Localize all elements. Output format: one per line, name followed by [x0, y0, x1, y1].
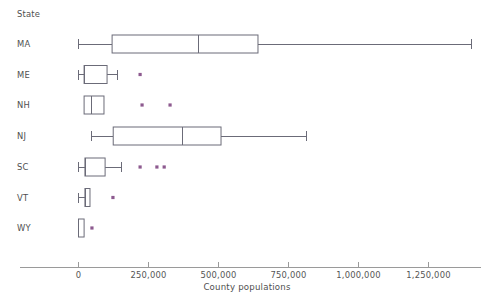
- box-plot-chart: State MAMENHNJSCVTWY 0250,000500,000750,…: [0, 0, 495, 304]
- x-tick-label-1: 250,000: [130, 270, 166, 280]
- x-tick-label-5: 1,250,000: [406, 270, 450, 280]
- outlier-sc-1: [139, 165, 142, 168]
- category-labels: MAMENHNJSCVTWY: [17, 39, 31, 233]
- box-iqr: [84, 66, 107, 84]
- outlier-vt-1: [111, 196, 114, 199]
- category-label-sc: SC: [17, 162, 29, 172]
- box-plot-series: [79, 35, 472, 237]
- outlier-sc-3: [163, 165, 166, 168]
- box-plot-me: [79, 66, 118, 84]
- chart-canvas: State MAMENHNJSCVTWY 0250,000500,000750,…: [0, 0, 495, 304]
- box-plot-nh: [84, 96, 104, 114]
- category-label-ma: MA: [17, 39, 30, 49]
- box-plot-sc: [79, 158, 122, 176]
- category-label-nh: NH: [17, 100, 30, 110]
- category-label-wy: WY: [17, 223, 31, 233]
- category-label-vt: VT: [17, 193, 29, 203]
- outlier-sc-2: [155, 165, 158, 168]
- x-axis-tick-labels: 0250,000500,000750,0001,000,0001,250,000: [76, 270, 451, 280]
- box-iqr: [84, 96, 104, 114]
- x-tick-label-2: 500,000: [200, 270, 236, 280]
- category-axis-title: State: [17, 9, 40, 19]
- category-label-me: ME: [17, 70, 30, 80]
- box-iqr: [112, 35, 258, 53]
- x-tick-label-4: 1,000,000: [336, 270, 380, 280]
- x-axis: [20, 262, 481, 267]
- box-iqr: [85, 158, 105, 176]
- x-tick-label-3: 750,000: [270, 270, 306, 280]
- box-iqr: [79, 219, 85, 237]
- outlier-nh-1: [140, 103, 143, 106]
- category-axis-header: State: [17, 9, 40, 19]
- category-label-nj: NJ: [17, 131, 26, 141]
- box-plot-wy: [79, 219, 85, 237]
- box-iqr: [113, 127, 221, 145]
- outlier-me-1: [139, 73, 142, 76]
- box-plot-ma: [79, 35, 472, 53]
- x-tick-label-0: 0: [76, 270, 82, 280]
- outlier-wy-1: [90, 226, 93, 229]
- box-plot-nj: [92, 127, 307, 145]
- outlier-nh-2: [168, 103, 171, 106]
- x-axis-title: County populations: [203, 282, 290, 292]
- box-plot-vt: [79, 189, 90, 207]
